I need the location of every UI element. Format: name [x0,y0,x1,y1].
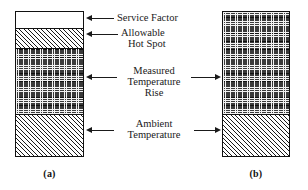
service-factor-label: Service Factor [117,12,212,24]
bar-b-caption: (b) [222,168,290,179]
ambient-temperature-label-line2: Temperature [108,129,200,141]
measured-temperature-rise-arrow-right-icon [215,74,221,80]
measured-temperature-rise-arrow-left-icon [86,74,92,80]
service-factor-leader-line [92,18,114,19]
figure-canvas: (a) (b) Service Factor Allowable Hot Spo… [0,0,308,190]
bar-b-segment-ambient-temperature [223,115,289,156]
bar-a-segment-allowable-hot-spot [16,29,83,48]
allowable-hot-spot-leader-line [92,34,118,35]
allowable-hot-spot-arrow-icon [86,31,92,37]
ambient-temperature-label-line1: Ambient [108,118,200,130]
measured-temperature-rise-label-line3: Rise [108,87,200,99]
measured-temperature-rise-label-line1: Measured [108,65,200,77]
bar-b-segment-measured-temperature-rise [223,12,289,114]
ambient-temperature-arrow-left-icon [86,127,92,133]
bar-a [15,11,84,157]
bar-b [222,11,290,157]
bar-a-segment-service-factor [16,12,83,28]
measured-temperature-rise-label-line2: Temperature [108,76,200,88]
ambient-temperature-arrow-right-icon [215,127,221,133]
allowable-hot-spot-label-line1: Allowable [121,27,216,39]
bar-a-caption: (a) [15,168,84,179]
bar-a-segment-ambient-temperature [16,115,83,156]
bar-a-segment-measured-temperature-rise [16,49,83,114]
allowable-hot-spot-label-line2: Hot Spot [128,38,223,50]
service-factor-arrow-icon [86,15,92,21]
